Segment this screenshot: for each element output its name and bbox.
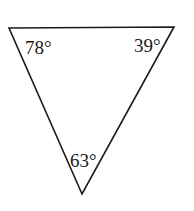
angle-label-top-right: 39° <box>134 35 161 56</box>
angle-label-bottom: 63° <box>70 150 97 171</box>
angle-label-top-left: 78° <box>25 37 52 58</box>
triangle-diagram: 78° 39° 63° <box>0 0 194 211</box>
